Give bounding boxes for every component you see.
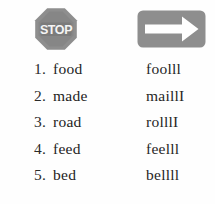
list-item: 1. food foolll [0, 56, 215, 83]
row-word: made [53, 83, 88, 110]
row-blend: foolll [146, 56, 181, 83]
row-word: road [53, 109, 82, 136]
row-blend: rolllI [146, 109, 179, 136]
stop-sign-label: STOP [40, 23, 72, 37]
row-number: 1. [24, 56, 46, 83]
icon-header-row: STOP [0, 0, 215, 56]
row-blend: bellll [146, 162, 179, 189]
list-item: 5. bed bellll [0, 162, 215, 189]
list-item: 3. road rolllI [0, 109, 215, 136]
row-number: 3. [24, 109, 46, 136]
row-blend: feelll [146, 136, 179, 163]
row-word: feed [53, 136, 81, 163]
row-number: 4. [24, 136, 46, 163]
stop-sign-icon: STOP [34, 7, 78, 51]
list-item: 4. feed feelll [0, 136, 215, 163]
row-blend: maillI [146, 83, 185, 110]
row-number: 5. [24, 162, 46, 189]
word-list: 1. food foolll 2. made maillI 3. road ro… [0, 56, 215, 204]
list-item: 2. made maillI [0, 83, 215, 110]
worksheet-page: STOP 1. food foolll 2. made maillI 3. ro… [0, 0, 215, 204]
row-word: bed [53, 162, 76, 189]
row-word: food [53, 56, 82, 83]
row-number: 2. [24, 83, 46, 110]
right-arrow-icon [137, 10, 206, 48]
